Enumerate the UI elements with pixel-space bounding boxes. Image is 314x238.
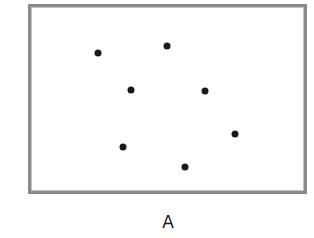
dot: [120, 144, 127, 151]
figure-frame: [28, 4, 307, 194]
dot: [202, 88, 209, 95]
dot: [182, 164, 189, 171]
dot: [128, 87, 135, 94]
dot: [95, 50, 102, 57]
dot: [232, 131, 239, 138]
dot: [164, 43, 171, 50]
figure-label: A: [0, 212, 314, 232]
